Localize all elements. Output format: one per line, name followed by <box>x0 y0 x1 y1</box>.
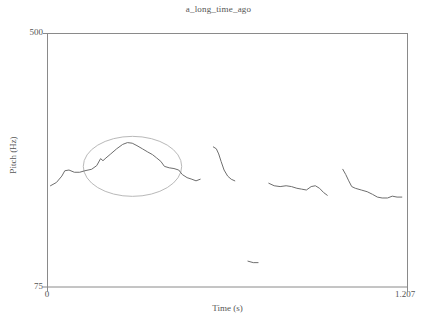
pitch-contour-segment-1 <box>50 143 200 186</box>
annotation-layer <box>83 136 181 196</box>
plot-canvas <box>0 0 437 333</box>
pitch-contour-segment-3-low <box>248 261 258 262</box>
pitch-contour-figure: a_long_time_ago Pitch (Hz) Time (s) 500 … <box>0 0 437 333</box>
pitch-contour-segment-2 <box>213 147 234 181</box>
axis-ticks <box>43 34 408 293</box>
pitch-contour-segment-5 <box>343 169 402 198</box>
pitch-contour-segment-4 <box>269 183 327 195</box>
pitch-contour-layer <box>50 143 401 263</box>
plot-border <box>48 34 408 288</box>
highlight-ellipse <box>83 136 181 196</box>
axis-frame <box>48 34 408 288</box>
